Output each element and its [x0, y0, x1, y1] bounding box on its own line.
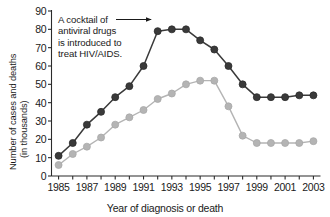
data-point-cases-2002 — [296, 92, 303, 99]
data-point-deaths-2001 — [282, 140, 289, 147]
data-point-deaths-1985 — [55, 162, 62, 169]
data-point-deaths-2000 — [267, 140, 274, 147]
data-point-deaths-1989 — [112, 121, 119, 128]
data-point-cases-1997 — [225, 63, 232, 70]
data-point-deaths-1995 — [197, 77, 204, 84]
data-series — [55, 26, 317, 169]
axes — [48, 10, 321, 180]
data-point-cases-2000 — [267, 94, 274, 101]
data-point-cases-1993 — [168, 26, 175, 33]
data-point-deaths-2003 — [310, 138, 317, 145]
aids-cases-deaths-line-chart: Number of cases and deaths (in thousands… — [0, 0, 330, 217]
data-point-cases-1999 — [253, 94, 260, 101]
data-point-cases-1990 — [126, 83, 133, 90]
data-point-deaths-1999 — [253, 140, 260, 147]
plot-area — [0, 0, 330, 217]
data-point-cases-1988 — [98, 108, 105, 115]
data-point-cases-1994 — [183, 26, 190, 33]
data-point-cases-1998 — [239, 81, 246, 88]
data-point-deaths-1992 — [154, 96, 161, 103]
data-point-cases-1992 — [154, 28, 161, 35]
data-point-cases-1986 — [69, 140, 76, 147]
data-point-deaths-1986 — [69, 151, 76, 158]
data-point-deaths-1990 — [126, 114, 133, 121]
data-point-deaths-2002 — [296, 140, 303, 147]
data-point-deaths-1993 — [168, 90, 175, 97]
data-point-cases-1987 — [83, 121, 90, 128]
data-point-cases-1991 — [140, 63, 147, 70]
data-point-deaths-1994 — [183, 81, 190, 88]
series-line-deaths — [59, 81, 314, 165]
data-point-deaths-1998 — [239, 132, 246, 139]
data-point-cases-1996 — [211, 46, 218, 53]
data-point-cases-1985 — [55, 152, 62, 159]
data-point-deaths-1987 — [83, 143, 90, 150]
data-point-deaths-1991 — [140, 107, 147, 114]
data-point-cases-2001 — [282, 94, 289, 101]
data-point-cases-1989 — [112, 94, 119, 101]
series-line-cases — [59, 29, 314, 156]
data-point-cases-2003 — [310, 92, 317, 99]
data-point-cases-1995 — [197, 37, 204, 44]
data-point-deaths-1988 — [98, 134, 105, 141]
data-point-deaths-1997 — [225, 103, 232, 110]
data-point-deaths-1996 — [211, 77, 218, 84]
